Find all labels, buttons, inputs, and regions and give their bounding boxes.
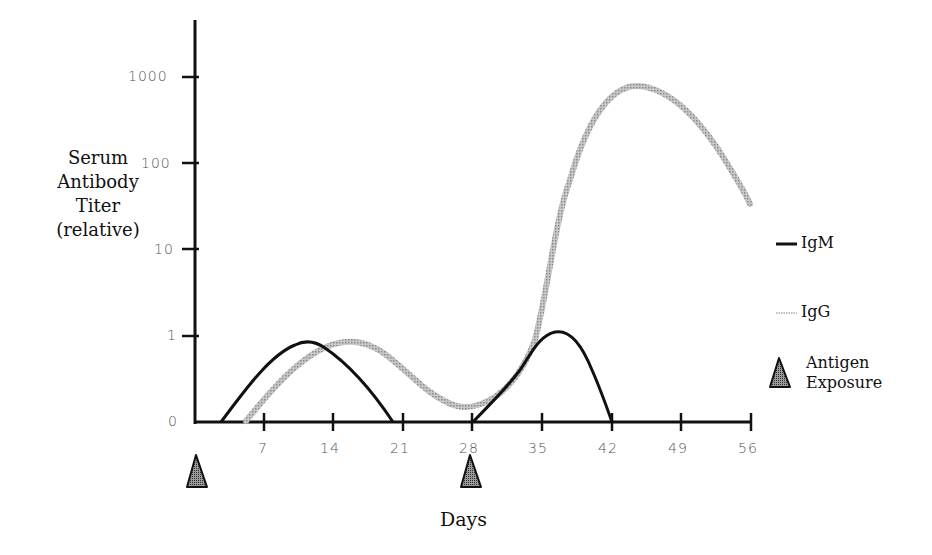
legend-antigen-label-line2: Exposure xyxy=(806,373,882,393)
igg-line xyxy=(246,86,750,421)
legend-antigen-triangle-icon xyxy=(770,358,790,387)
legend-igm-label: IgM xyxy=(801,233,834,253)
axes xyxy=(194,20,752,424)
antigen-exposure-marker-day0 xyxy=(187,455,207,487)
antigen-exposure-marker-day28 xyxy=(461,455,481,487)
chart-plot xyxy=(0,0,932,555)
legend-igg-label: IgG xyxy=(801,302,830,322)
igm-line-1 xyxy=(221,342,393,422)
igm-line-2 xyxy=(473,332,612,422)
legend-antigen-label-line1: Antigen xyxy=(806,353,869,373)
